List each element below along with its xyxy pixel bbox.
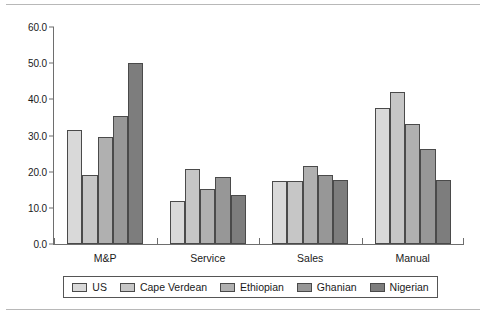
- bar: [82, 175, 97, 244]
- bar: [420, 149, 435, 244]
- legend-swatch: [297, 283, 312, 292]
- legend-swatch: [72, 283, 87, 292]
- legend-item: Ethiopian: [220, 281, 284, 293]
- bar-group: Manual: [375, 27, 451, 244]
- bar: [200, 189, 215, 244]
- legend-label: Nigerian: [390, 281, 429, 293]
- bar: [98, 137, 113, 244]
- bar: [231, 195, 246, 244]
- legend-label: Ethiopian: [240, 281, 284, 293]
- top-divider-rule: [6, 4, 480, 5]
- y-axis-tick-mark: [49, 99, 54, 100]
- chart-figure: 0.010.020.030.040.050.060.0 M&PServiceSa…: [0, 0, 486, 319]
- bar: [375, 108, 390, 244]
- bar: [185, 169, 200, 244]
- x-axis-separator-tick: [362, 238, 363, 244]
- x-axis-category-label: Service: [170, 252, 246, 264]
- bar: [113, 116, 128, 244]
- chart-legend: USCape VerdeanEthiopianGhanianNigerian: [63, 276, 438, 298]
- legend-label: Cape Verdean: [140, 281, 207, 293]
- plot-area: 0.010.020.030.040.050.060.0 M&PServiceSa…: [53, 27, 464, 245]
- bar: [272, 181, 287, 244]
- legend-item: Ghanian: [297, 281, 357, 293]
- legend-item: US: [72, 281, 107, 293]
- bar: [436, 180, 451, 244]
- bar: [67, 130, 82, 244]
- bottom-divider-rule: [6, 309, 480, 310]
- legend-item: Cape Verdean: [120, 281, 207, 293]
- y-axis-tick-mark: [49, 63, 54, 64]
- y-axis-tick-mark: [49, 171, 54, 172]
- legend-swatch: [120, 283, 135, 292]
- bar: [170, 201, 185, 244]
- x-axis-category-label: M&P: [67, 252, 143, 264]
- bar: [215, 177, 230, 244]
- bar: [128, 63, 143, 244]
- legend-swatch: [220, 283, 235, 292]
- x-axis-separator-tick: [463, 238, 464, 244]
- x-axis-separator-tick: [54, 238, 55, 244]
- bar-group: M&P: [67, 27, 143, 244]
- bar: [333, 180, 348, 244]
- y-axis-tick-mark: [49, 135, 54, 136]
- bar: [318, 175, 333, 244]
- bar: [303, 166, 318, 244]
- bar: [287, 181, 302, 244]
- x-axis-separator-tick: [157, 238, 158, 244]
- legend-label: US: [92, 281, 107, 293]
- legend-item: Nigerian: [370, 281, 429, 293]
- x-axis-category-label: Manual: [375, 252, 451, 264]
- y-axis-tick-mark: [49, 27, 54, 28]
- y-axis-tick-mark: [49, 207, 54, 208]
- x-axis-category-label: Sales: [272, 252, 348, 264]
- bar-group: Service: [170, 27, 246, 244]
- legend-swatch: [370, 283, 385, 292]
- x-axis-separator-tick: [259, 238, 260, 244]
- bar: [390, 92, 405, 244]
- bar: [405, 124, 420, 244]
- bar-group: Sales: [272, 27, 348, 244]
- legend-label: Ghanian: [317, 281, 357, 293]
